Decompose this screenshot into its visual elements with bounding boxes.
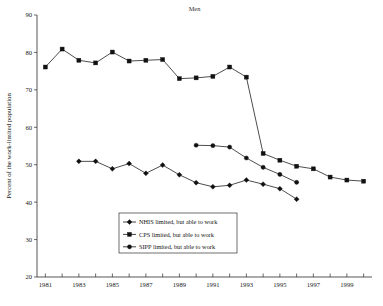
square-marker-icon	[362, 179, 366, 183]
diamond-marker-icon	[244, 178, 249, 183]
diamond-marker-icon	[277, 186, 282, 191]
diamond-marker-icon	[93, 159, 98, 164]
diamond-marker-icon	[294, 197, 299, 202]
y-axis-tick-label: 50	[25, 161, 32, 168]
circle-marker-icon	[194, 143, 198, 147]
square-marker-icon	[94, 61, 98, 65]
legend-entry-label: SIPP limited, but able to work	[139, 243, 216, 250]
square-marker-icon	[311, 167, 315, 171]
legend-entry-label: NHIS limited, but able to work	[139, 218, 218, 225]
y-axis-tick-label: 70	[25, 86, 32, 93]
circle-marker-icon	[295, 180, 299, 184]
square-marker-icon	[60, 47, 64, 51]
square-marker-icon	[127, 59, 131, 63]
square-marker-icon	[161, 58, 165, 62]
x-axis-tick-label: 1987	[139, 281, 153, 288]
square-marker-icon	[278, 158, 282, 162]
square-marker-icon	[211, 74, 215, 78]
x-axis-tick-label: 1991	[206, 281, 219, 288]
diamond-marker-icon	[227, 183, 232, 188]
circle-marker-icon	[261, 165, 265, 169]
series-line-path	[196, 145, 297, 182]
square-marker-icon	[228, 65, 232, 69]
y-axis-tick-label: 60	[25, 124, 32, 131]
square-marker-icon	[261, 151, 265, 155]
square-marker-icon	[128, 232, 132, 236]
y-axis-tick-label: 20	[25, 273, 32, 280]
x-axis-tick-label: 1993	[240, 281, 254, 288]
circle-marker-icon	[127, 245, 131, 249]
y-axis-title: Percent of the work-limited population	[5, 93, 12, 199]
circle-marker-icon	[228, 145, 232, 149]
square-marker-icon	[295, 164, 299, 168]
x-axis-tick-label: 1983	[72, 281, 86, 288]
circle-marker-icon	[244, 156, 248, 160]
diamond-marker-icon	[194, 180, 199, 185]
y-axis-tick-label: 30	[25, 236, 32, 243]
x-axis-tick-label: 1985	[106, 281, 120, 288]
x-axis-tick-label: 1997	[307, 281, 321, 288]
diamond-marker-icon	[127, 161, 132, 166]
men-work-limited-line-chart: 2030405060708090Percent of the work-limi…	[0, 0, 383, 306]
x-axis-tick-label: 1981	[39, 281, 52, 288]
square-marker-icon	[244, 75, 248, 79]
y-axis-tick-label: 80	[25, 49, 32, 56]
circle-marker-icon	[278, 172, 282, 176]
x-axis-tick-label: 1995	[273, 281, 287, 288]
square-marker-icon	[110, 50, 114, 54]
square-marker-icon	[144, 58, 148, 62]
x-axis-tick-label: 1999	[340, 281, 354, 288]
diamond-marker-icon	[210, 184, 215, 189]
chart-title: Men	[189, 5, 202, 12]
square-marker-icon	[345, 178, 349, 182]
legend: NHIS limited, but able to workCPS limite…	[119, 213, 237, 253]
chart-container: 2030405060708090Percent of the work-limi…	[0, 0, 383, 306]
diamond-marker-icon	[177, 172, 182, 177]
diamond-marker-icon	[110, 166, 115, 171]
square-marker-icon	[43, 65, 47, 69]
square-marker-icon	[77, 58, 81, 62]
square-marker-icon	[177, 77, 181, 81]
legend-entry-label: CPS limited, but able to work	[139, 231, 215, 238]
series-diamond	[76, 159, 299, 202]
square-marker-icon	[194, 76, 198, 80]
diamond-marker-icon	[160, 163, 165, 168]
square-marker-icon	[328, 175, 332, 179]
series-square	[43, 47, 365, 183]
y-axis-tick-label: 40	[25, 199, 32, 206]
x-axis-tick-label: 1989	[173, 281, 187, 288]
y-axis-tick-label: 90	[25, 11, 32, 18]
diamond-marker-icon	[76, 159, 81, 164]
diamond-marker-icon	[143, 171, 148, 176]
diamond-marker-icon	[261, 182, 266, 187]
circle-marker-icon	[211, 144, 215, 148]
